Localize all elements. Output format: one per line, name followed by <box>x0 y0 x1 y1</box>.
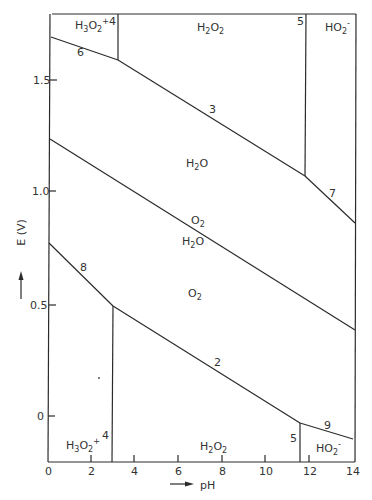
label-part: O <box>210 21 219 34</box>
region-label-h3o2plus-top: H3O2+ <box>75 18 109 34</box>
y-axis-title: E (V) <box>15 215 28 251</box>
label-sub: 2 <box>219 27 224 36</box>
label-part: O <box>195 235 204 248</box>
label-sub: 2 <box>222 446 227 455</box>
label-part: HO <box>325 21 342 34</box>
x-tick-label: 12 <box>303 466 317 477</box>
x-tick-label: 4 <box>131 466 138 477</box>
x-tick-label: 8 <box>219 466 226 477</box>
x-tick-label: 6 <box>175 466 182 477</box>
region-label-h2o: H2O <box>186 158 208 172</box>
label-sup: - <box>338 440 341 449</box>
label-part: HO <box>316 442 333 455</box>
x-tick-label: 0 <box>45 466 52 477</box>
line-number-4-bottom: 4 <box>102 430 109 441</box>
y-tick-label: 1.0 <box>32 186 50 197</box>
label-sub: 2 <box>197 293 202 302</box>
label-part: O <box>199 157 208 170</box>
label-part: O <box>213 440 222 453</box>
region-label-o2: O2 <box>188 288 202 302</box>
y-tick-label: 0.5 <box>30 300 48 311</box>
label-part: O <box>79 439 88 452</box>
label-part: O <box>88 19 97 32</box>
region-label-h2o2-top: H2O2 <box>197 22 224 36</box>
line-number-5-bottom: 5 <box>290 433 297 444</box>
label-part: O <box>191 214 200 227</box>
x-tick-label: 10 <box>259 466 273 477</box>
line-3 <box>118 60 305 176</box>
y-tick-label: 1.5 <box>33 75 51 86</box>
label-sub: 2 <box>333 448 338 457</box>
y-arrow-head <box>19 271 24 280</box>
y-tick-label: 0 <box>37 411 44 422</box>
boundary-label-h2o: H2O <box>182 236 204 250</box>
line-number-7: 7 <box>329 188 336 199</box>
right-border <box>355 14 356 462</box>
label-sub: 2 <box>342 27 347 36</box>
region-label-h2o2-bottom: H2O2 <box>200 441 227 455</box>
label-sup: + <box>102 17 109 26</box>
stray-dot <box>98 377 100 379</box>
x-tick-label: 14 <box>346 466 360 477</box>
line-number-4-top: 4 <box>109 16 116 27</box>
line-5-upper <box>305 14 306 176</box>
line-8 <box>49 243 113 306</box>
line-4-lower <box>112 306 113 462</box>
region-label-h3o2plus-bottom: H3O2+ <box>66 438 100 454</box>
line-6 <box>51 37 118 60</box>
line-number-8: 8 <box>80 262 87 273</box>
line-number-3: 3 <box>209 104 216 115</box>
label-part: O <box>188 287 197 300</box>
line-2 <box>113 306 300 423</box>
label-sub: 2 <box>88 445 93 454</box>
region-label-ho2minus-top: HO2- <box>325 20 350 36</box>
line-number-5-top: 5 <box>297 16 304 27</box>
boundary-label-o2: O2 <box>191 215 205 229</box>
line-number-2: 2 <box>214 357 221 368</box>
label-sup: - <box>347 19 350 28</box>
label-sub: 2 <box>97 25 102 34</box>
x-arrow-head <box>185 482 194 487</box>
x-axis-title: pH <box>200 479 215 492</box>
label-sup: + <box>93 437 100 446</box>
region-label-ho2minus-bottom: HO2- <box>316 441 341 457</box>
line-number-9: 9 <box>324 420 331 431</box>
label-sub: 2 <box>200 220 205 229</box>
x-tick-label: 2 <box>88 466 95 477</box>
line-number-6: 6 <box>77 47 84 58</box>
